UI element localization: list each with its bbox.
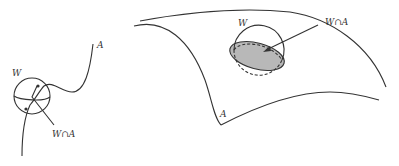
surface-bottom-edge: [221, 92, 379, 125]
pointer-arrow-left: [32, 86, 54, 125]
right-panel: W W∩A A: [134, 10, 386, 125]
label-w-right: W: [238, 18, 248, 28]
label-a-left: A: [96, 40, 104, 50]
pointer-arrow-right: [266, 25, 318, 50]
intersection-point-lower: [24, 107, 27, 110]
diagram-canvas: A W W∩A W W∩A A: [0, 0, 399, 166]
intersection-point-upper: [36, 84, 39, 87]
left-panel: A W W∩A: [12, 40, 104, 156]
label-a-right: A: [219, 109, 227, 119]
label-intersection-right: W∩A: [325, 17, 349, 27]
surface-left-edge: [134, 24, 221, 125]
label-intersection-left: W∩A: [52, 129, 76, 139]
label-w-left: W: [12, 68, 22, 78]
